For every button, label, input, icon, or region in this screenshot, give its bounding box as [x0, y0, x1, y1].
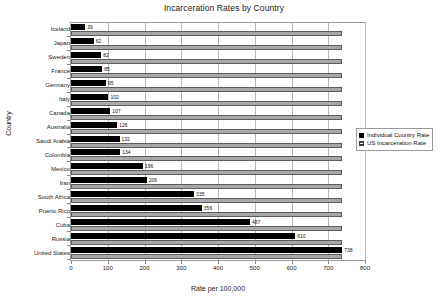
- y-axis-category-label: France: [4, 68, 70, 75]
- y-axis-category-label: Canada: [4, 110, 70, 117]
- bar-us-rate: [71, 212, 342, 217]
- bar-us-rate: [71, 184, 342, 189]
- bar-us-rate: [71, 87, 342, 92]
- x-axis-tick: [365, 261, 366, 264]
- bar-country-rate: [71, 149, 120, 155]
- bar-us-rate: [71, 31, 342, 36]
- y-axis-category-label: Germany: [4, 82, 70, 89]
- legend-label-us: US Incarceration Rate: [367, 140, 426, 147]
- x-axis-tick: [71, 261, 72, 264]
- legend-swatch-icon-country: [359, 133, 364, 138]
- plot-area: 3962828595102107126132134196206335356487…: [70, 22, 366, 261]
- bar-country-rate: [71, 52, 101, 58]
- bar-us-rate: [71, 101, 342, 106]
- bars-layer: 3962828595102107126132134196206335356487…: [71, 23, 365, 260]
- bar-us-rate: [71, 198, 342, 203]
- x-axis-tick-label: 0: [69, 265, 72, 271]
- bar-country-rate: [71, 205, 202, 211]
- bar-value-label: 610: [297, 233, 305, 239]
- x-axis-ticks: 0100200300400500600700800: [70, 261, 366, 275]
- bar-country-rate: [71, 122, 117, 128]
- bar-us-rate: [71, 129, 342, 134]
- bar-row: 107: [71, 107, 365, 121]
- bar-country-rate: [71, 66, 102, 72]
- x-axis-tick: [145, 261, 146, 264]
- bar-row: 132: [71, 135, 365, 149]
- bar-country-rate: [71, 108, 110, 114]
- y-axis-category-label: United States: [4, 250, 70, 257]
- bar-value-label: 39: [87, 24, 93, 30]
- bar-country-rate: [71, 24, 85, 30]
- bar-row: 356: [71, 204, 365, 218]
- y-axis-category-label: Russia: [4, 236, 70, 243]
- y-axis-category-label: South Africa: [4, 194, 70, 201]
- legend-item-us-rate: US Incarceration Rate: [359, 140, 429, 147]
- bar-us-rate: [71, 73, 342, 78]
- bar-row: 335: [71, 190, 365, 204]
- legend-item-country-rate: Individual Country Rate: [359, 132, 429, 139]
- bar-country-rate: [71, 233, 295, 239]
- bar-us-rate: [71, 45, 342, 50]
- x-axis-tick-label: 400: [213, 265, 223, 271]
- bar-country-rate: [71, 177, 147, 183]
- x-axis-tick-label: 800: [360, 265, 370, 271]
- bar-row: 487: [71, 218, 365, 232]
- bar-value-label: 102: [110, 94, 118, 100]
- x-axis-tick: [218, 261, 219, 264]
- bar-value-label: 132: [122, 136, 130, 142]
- x-axis-tick: [328, 261, 329, 264]
- bar-country-rate: [71, 38, 94, 44]
- y-axis-category-label: Italy: [4, 96, 70, 103]
- bar-value-label: 95: [108, 80, 114, 86]
- y-axis-category-label: Iran: [4, 180, 70, 187]
- x-axis-tick: [181, 261, 182, 264]
- bar-value-label: 82: [103, 52, 109, 58]
- x-axis-tick: [292, 261, 293, 264]
- bar-row: 738: [71, 246, 365, 260]
- bar-us-rate: [71, 59, 342, 64]
- x-axis-tick-label: 500: [250, 265, 260, 271]
- bar-row: 62: [71, 37, 365, 51]
- bar-row: 39: [71, 23, 365, 37]
- bar-value-label: 107: [112, 108, 120, 114]
- bar-value-label: 738: [344, 247, 352, 253]
- legend-swatch-icon-us: [359, 141, 364, 146]
- y-axis-category-label: Saudi Arabia: [4, 138, 70, 145]
- bar-row: 95: [71, 79, 365, 93]
- bar-value-label: 62: [96, 38, 102, 44]
- y-axis-category-label: Japan: [4, 40, 70, 47]
- bar-value-label: 85: [104, 66, 110, 72]
- x-axis-tick-label: 100: [103, 265, 113, 271]
- bar-us-rate: [71, 115, 342, 120]
- bar-country-rate: [71, 219, 250, 225]
- x-axis-tick: [255, 261, 256, 264]
- bar-row: 610: [71, 232, 365, 246]
- x-axis-tick-label: 300: [176, 265, 186, 271]
- bar-us-rate: [71, 156, 342, 161]
- bar-row: 206: [71, 176, 365, 190]
- bar-row: 82: [71, 51, 365, 65]
- bar-value-label: 335: [196, 191, 204, 197]
- bar-country-rate: [71, 247, 342, 253]
- y-axis-labels: IcelandJapanSwedenFranceGermanyItalyCana…: [0, 22, 70, 261]
- bar-row: 85: [71, 65, 365, 79]
- x-axis-tick-label: 600: [286, 265, 296, 271]
- bar-value-label: 196: [145, 163, 153, 169]
- y-axis-category-label: Australia: [4, 124, 70, 131]
- y-axis-category-label: Colombia: [4, 152, 70, 159]
- x-axis-title: Rate per 100,000: [70, 285, 366, 292]
- bar-value-label: 134: [122, 149, 130, 155]
- bar-row: 126: [71, 121, 365, 135]
- bar-us-rate: [71, 240, 342, 245]
- chart-title: Incarceration Rates by Country: [0, 3, 448, 13]
- legend-label-country: Individual Country Rate: [367, 132, 429, 139]
- bar-row: 134: [71, 148, 365, 162]
- bar-value-label: 356: [204, 205, 212, 211]
- y-axis-category-label: Cuba: [4, 222, 70, 229]
- bar-country-rate: [71, 136, 120, 142]
- bar-us-rate: [71, 254, 342, 259]
- bar-us-rate: [71, 170, 342, 175]
- y-axis-category-label: Mexico: [4, 166, 70, 173]
- bar-value-label: 206: [149, 177, 157, 183]
- y-axis-category-label: Puerto Rico: [4, 208, 70, 215]
